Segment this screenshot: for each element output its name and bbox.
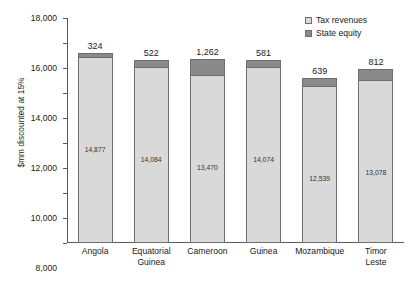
y-axis-tick-label: 8,000 (35, 263, 57, 273)
x-axis-label-line: Timor (348, 246, 404, 257)
x-axis-label-line: Angola (67, 246, 123, 257)
bar-value-label-state-equity: 522 (134, 48, 169, 58)
legend-item-tax-revenues: Tax revenues (305, 14, 413, 26)
bar-stack[interactable]: 14,877 (78, 53, 113, 243)
x-axis-label: Cameroon (179, 246, 235, 257)
x-axis-label: EquatorialGuinea (123, 246, 179, 267)
bar-segment-tax-revenues[interactable]: 13,078 (358, 80, 393, 243)
bar-value-label-tax-revenues: 13,470 (191, 164, 224, 171)
bar-segment-tax-revenues[interactable]: 12,539 (302, 86, 337, 243)
bar-segment-state-equity[interactable] (358, 69, 393, 79)
plot-area: 02,0004,0006,0008,00010,00012,00014,0001… (67, 18, 404, 243)
bars-layer: 14,87732414,08452213,4701,26214,07458112… (67, 18, 404, 243)
bar-value-label-tax-revenues: 14,074 (247, 156, 280, 163)
bar-value-label-state-equity: 581 (246, 48, 281, 58)
x-axis-label-line: Cameroon (179, 246, 235, 257)
bar-value-label-state-equity: 639 (302, 66, 337, 76)
bar-stack[interactable]: 12,539 (302, 78, 337, 243)
legend-label-tax-revenues: Tax revenues (316, 15, 367, 25)
bar-segment-tax-revenues[interactable]: 14,877 (78, 57, 113, 243)
bar-stack[interactable]: 13,078 (358, 69, 393, 243)
x-axis-label: TimorLeste (348, 246, 404, 267)
bar-group[interactable]: 13,078812 (358, 18, 393, 243)
bar-value-label-tax-revenues: 13,078 (359, 169, 392, 176)
bar-group[interactable]: 12,539639 (302, 18, 337, 243)
bar-value-label-tax-revenues: 12,539 (303, 175, 336, 182)
bar-value-label-state-equity: 812 (358, 57, 393, 67)
bar-segment-tax-revenues[interactable]: 14,084 (134, 67, 169, 243)
bar-segment-state-equity[interactable] (246, 60, 281, 67)
bar-group[interactable]: 14,074581 (246, 18, 281, 243)
x-axis-labels: AngolaEquatorialGuineaCameroonGuineaMoza… (67, 246, 404, 282)
x-axis-label: Angola (67, 246, 123, 257)
stacked-bar-chart: $mm discounted at 15% 02,0004,0006,0008,… (0, 0, 415, 285)
y-axis-tick-label: 10,000 (31, 213, 57, 223)
bar-segment-tax-revenues[interactable]: 14,074 (246, 67, 281, 243)
bar-segment-state-equity[interactable] (190, 59, 225, 75)
x-axis-label-line: Mozambique (292, 246, 348, 257)
bar-stack[interactable]: 13,470 (190, 59, 225, 243)
bar-value-label-tax-revenues: 14,877 (79, 146, 112, 153)
bar-value-label-tax-revenues: 14,084 (135, 156, 168, 163)
x-axis-label: Mozambique (292, 246, 348, 257)
bar-stack[interactable]: 14,084 (134, 60, 169, 243)
bar-group[interactable]: 13,4701,262 (190, 18, 225, 243)
bar-value-label-state-equity: 1,262 (190, 47, 225, 57)
legend-swatch-tax-revenues (305, 17, 312, 24)
bar-segment-state-equity[interactable] (302, 78, 337, 86)
y-axis-tick: 0 (63, 243, 67, 244)
legend-item-state-equity: State equity (305, 27, 413, 39)
y-axis-tick-label: 14,000 (31, 113, 57, 123)
legend-label-state-equity: State equity (316, 28, 361, 38)
y-axis-tick-label: 18,000 (31, 13, 57, 23)
x-axis-label: Guinea (236, 246, 292, 257)
x-axis-label-line: Guinea (123, 257, 179, 268)
bar-stack[interactable]: 14,074 (246, 60, 281, 243)
bar-group[interactable]: 14,084522 (134, 18, 169, 243)
bar-group[interactable]: 14,877324 (78, 18, 113, 243)
legend-swatch-state-equity (305, 30, 312, 37)
bar-segment-tax-revenues[interactable]: 13,470 (190, 75, 225, 243)
chart-legend: Tax revenues State equity (305, 14, 413, 40)
x-axis-label-line: Guinea (236, 246, 292, 257)
x-axis-label-line: Equatorial (123, 246, 179, 257)
y-axis-tick-label: 12,000 (31, 163, 57, 173)
y-axis-title: $mm discounted at 15% (17, 38, 26, 208)
bar-value-label-state-equity: 324 (78, 41, 113, 51)
cut-off-caption (0, 278, 415, 285)
y-axis-tick-label: 16,000 (31, 63, 57, 73)
x-axis-label-line: Leste (348, 257, 404, 268)
